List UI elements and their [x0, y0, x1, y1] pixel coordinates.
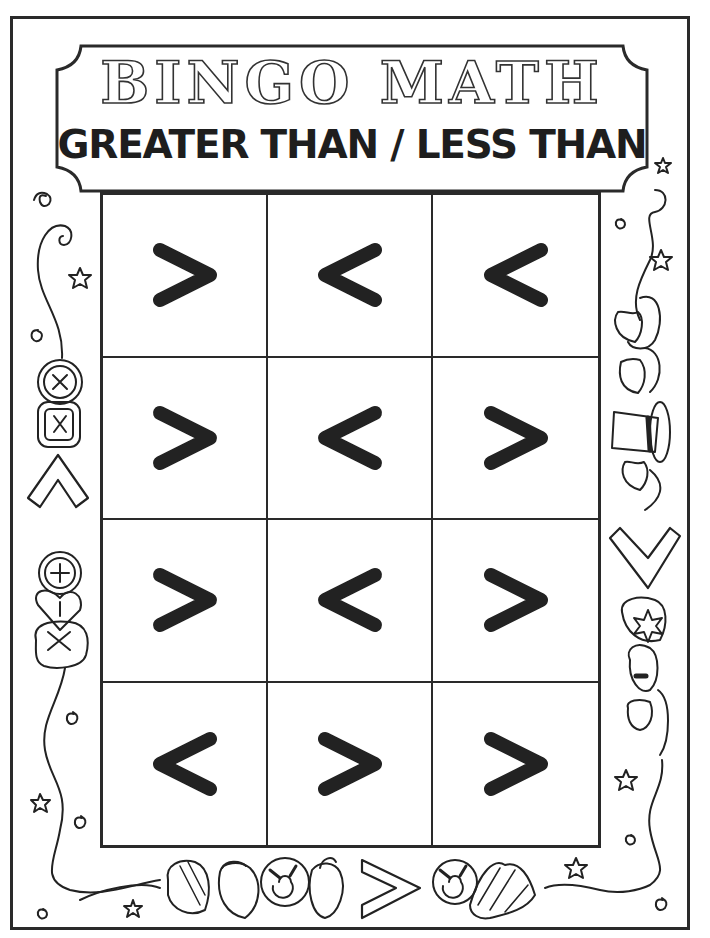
- spiral-icon: [38, 909, 47, 919]
- spiral-icon: [34, 193, 51, 206]
- star-icon: [69, 268, 91, 288]
- vine-line: [545, 760, 662, 892]
- button-icon: [38, 360, 82, 404]
- shell-icon: [310, 858, 343, 918]
- decorative-border-art: [0, 0, 710, 938]
- star-icon: [565, 858, 587, 878]
- spiral-icon: [75, 816, 86, 828]
- vine-line: [38, 225, 72, 358]
- spiral-icon: [616, 219, 625, 229]
- button-icon: [38, 402, 80, 447]
- spiral-icon: [656, 898, 667, 910]
- less-than-outline-icon: [28, 455, 88, 507]
- spiral-icon: [67, 712, 78, 724]
- star-icon: [31, 794, 50, 812]
- shell-icon: [433, 860, 477, 904]
- vine-line: [636, 190, 666, 320]
- hat-icon: [615, 297, 660, 349]
- spiral-icon: [32, 330, 42, 341]
- hat-icon: [612, 402, 670, 462]
- shell-icon: [219, 862, 259, 918]
- shell-icon: [261, 858, 309, 906]
- greater-than-outline-icon: [362, 860, 420, 918]
- shell-icon: [168, 861, 209, 913]
- spiral-icon: [626, 835, 635, 845]
- button-icon: [39, 552, 81, 594]
- star-icon: [124, 900, 142, 917]
- hat-icon: [620, 348, 660, 393]
- vine-line: [44, 668, 160, 893]
- star-icon: [655, 158, 671, 173]
- hat-icon: [623, 462, 661, 510]
- star-icon: [615, 770, 637, 790]
- hat-icon: [622, 598, 668, 755]
- greater-than-outline-icon: [610, 528, 680, 588]
- shell-icon: [470, 863, 535, 918]
